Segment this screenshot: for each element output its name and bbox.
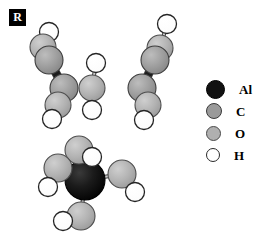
atom-c-r-c1: [141, 46, 169, 74]
atom-h-l-h2: [43, 110, 62, 129]
legend-label-o: O: [235, 127, 245, 140]
legend-label-c: C: [236, 105, 245, 118]
atom-layer: [30, 15, 177, 231]
legend-item-o: O: [206, 122, 274, 144]
atom-sphere-icon-al: [206, 80, 225, 99]
atom-h-a-h4: [54, 212, 73, 231]
atom-sphere-icon-h: [206, 148, 220, 162]
legend-item-c: C: [206, 100, 274, 122]
atom-h-a-h3: [126, 183, 145, 202]
atom-sphere-icon-c: [206, 103, 222, 119]
atom-h-a-h2: [39, 178, 58, 197]
legend-item-al: Al: [206, 78, 274, 100]
atom-h-m-h2: [83, 101, 102, 120]
molecular-structure-figure: R Al C O H: [0, 0, 276, 241]
atom-o-m-o1: [79, 75, 105, 101]
element-legend: Al C O H: [206, 78, 274, 166]
atom-h-r-h2: [135, 111, 154, 130]
atom-h-r-h1: [158, 15, 177, 34]
legend-label-al: Al: [239, 83, 252, 96]
atom-h-a-h1: [83, 148, 102, 167]
atom-sphere-icon-o: [206, 126, 221, 141]
atom-c-l-c1: [35, 46, 63, 74]
legend-item-h: H: [206, 144, 274, 166]
panel-label-r: R: [9, 9, 26, 26]
atom-h-m-h1: [87, 54, 106, 73]
legend-label-h: H: [234, 149, 244, 162]
